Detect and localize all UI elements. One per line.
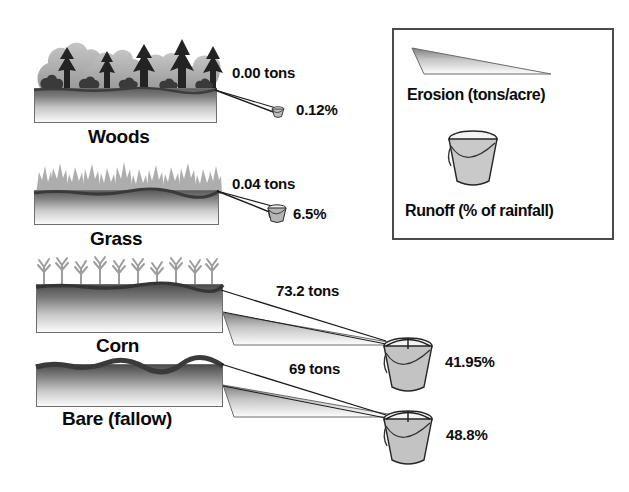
woods-runoff-bucket-icon [271,106,285,119]
legend-runoff-caption: Runoff (% of rainfall) [405,202,554,220]
plot-label-grass: Grass [90,228,142,250]
erosion-runoff-diagram: 0.00 tons 0.12% Woods [0,0,629,492]
woods-soil-block [34,88,218,124]
plot-label-corn: Corn [96,335,139,357]
grass-vegetation-icon [34,158,222,194]
bare-soil-block [36,360,224,408]
plot-label-bare: Bare (fallow) [62,408,172,430]
corn-soil-block [36,284,224,334]
plot-label-woods: Woods [88,126,149,148]
woods-vegetation-icon [34,30,220,92]
legend-bucket-icon [446,130,500,192]
plot-row-bare: 69 tons 48.8% Bare (fallow) [0,360,629,492]
grass-runoff-label: 6.5% [293,205,326,222]
woods-erosion-label: 0.00 tons [232,64,295,81]
grass-erosion-label: 0.04 tons [232,175,295,192]
grass-soil-block [34,190,220,226]
bare-erosion-label: 69 tons [289,360,340,377]
bare-runoff-bucket-icon [381,410,435,470]
bare-runoff-label: 48.8% [446,426,488,443]
legend-wedge-icon [410,44,554,80]
legend-box: Erosion (tons/acre) Runoff (% of rainfal… [392,28,614,240]
grass-runoff-bucket-icon [266,204,288,225]
legend-erosion-caption: Erosion (tons/acre) [407,86,545,104]
woods-runoff-label: 0.12% [296,101,338,118]
plot-row-corn: 73.2 tons 41.95% Corn [0,250,629,360]
corn-erosion-label: 73.2 tons [276,282,339,299]
